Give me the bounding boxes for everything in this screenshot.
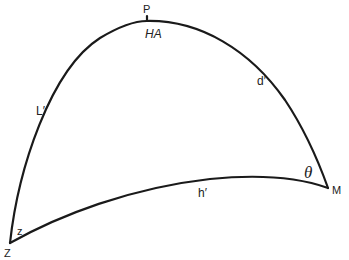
vertex-label-z: Z bbox=[4, 247, 11, 259]
angle-label-z: z bbox=[17, 225, 23, 237]
side-zm-arc bbox=[10, 177, 328, 243]
side-pm-arc bbox=[147, 21, 328, 188]
side-label-h-prime: h′ bbox=[198, 186, 208, 200]
spherical-triangle-diagram: P HA L′ d′ h′ θ M z Z bbox=[0, 0, 349, 260]
side-label-d-prime: d′ bbox=[257, 74, 267, 88]
angle-label-ha: HA bbox=[145, 27, 162, 41]
vertex-label-p: P bbox=[143, 3, 150, 15]
angle-label-theta: θ bbox=[304, 163, 312, 182]
vertex-label-m: M bbox=[332, 184, 341, 196]
side-label-l-prime: L′ bbox=[36, 104, 46, 118]
side-pz-arc bbox=[10, 21, 147, 243]
